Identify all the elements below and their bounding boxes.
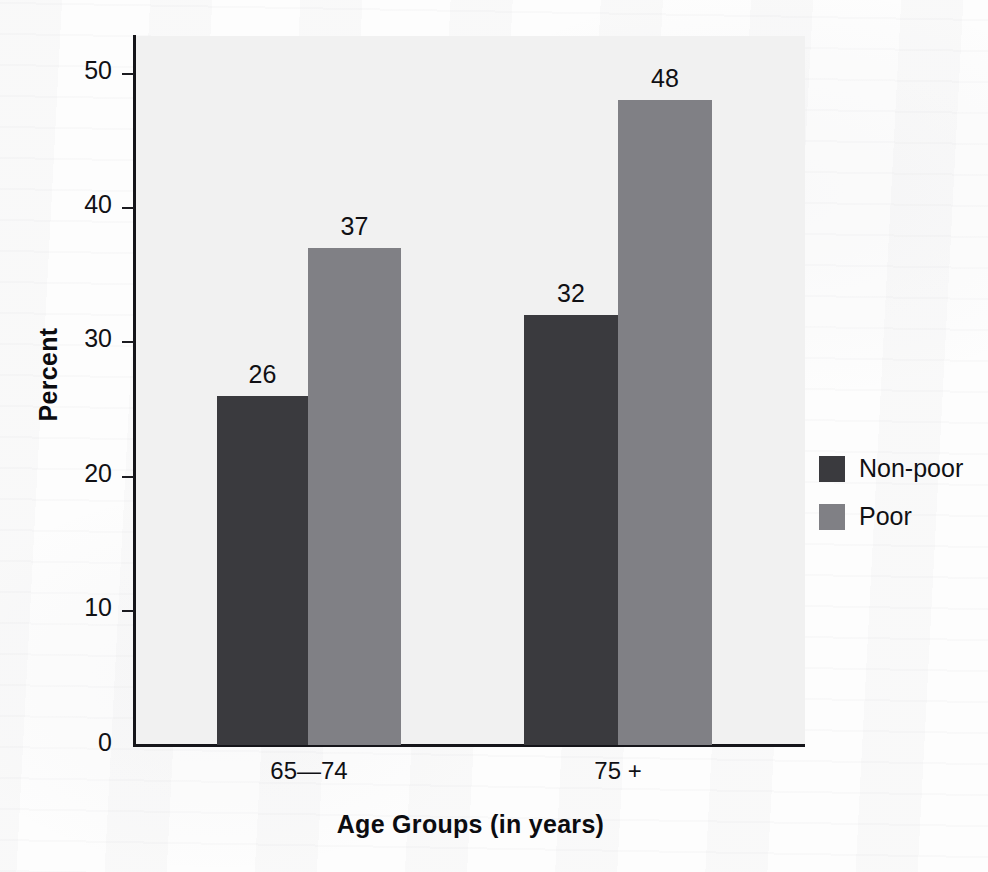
x-axis-title: Age Groups (in years): [136, 810, 805, 839]
y-tick-label-40: 40: [84, 190, 112, 219]
legend-item-poor: Poor: [819, 503, 984, 530]
legend-swatch-poor: [819, 504, 845, 530]
bar-value-75plus-poor: 48: [618, 64, 712, 93]
y-tick-label-10: 10: [84, 593, 112, 622]
y-tick-label-50: 50: [84, 56, 112, 85]
bar-value-65-74-non-poor: 26: [217, 360, 308, 389]
y-axis-title: Percent: [34, 315, 63, 435]
y-tick-mark-30: [122, 341, 134, 343]
bar-75plus-non-poor: [524, 315, 618, 745]
y-tick-label-30: 30: [84, 324, 112, 353]
x-tick-label-65-74: 65—74: [217, 757, 401, 785]
bar-value-65-74-poor: 37: [308, 212, 401, 241]
bar-value-75plus-non-poor: 32: [524, 279, 618, 308]
bars-layer: 26 37 32 48: [136, 36, 805, 745]
legend-swatch-non-poor: [819, 456, 845, 482]
legend-label-non-poor: Non-poor: [859, 454, 963, 483]
x-tick-label-75plus: 75 +: [524, 757, 712, 785]
legend: Non-poor Poor: [819, 455, 984, 551]
legend-label-poor: Poor: [859, 502, 912, 531]
y-tick-mark-20: [122, 476, 134, 478]
bar-65-74-poor: [308, 248, 401, 745]
bar-75plus-poor: [618, 100, 712, 745]
y-tick-label-0: 0: [98, 728, 112, 757]
y-tick-mark-40: [122, 207, 134, 209]
chart-page: 50 40 30 20 10 0 Percent 26 37 32 48 65—…: [0, 0, 988, 872]
bar-65-74-non-poor: [217, 396, 308, 745]
y-tick-label-20: 20: [84, 459, 112, 488]
y-tick-mark-10: [122, 610, 134, 612]
y-tick-mark-50: [122, 73, 134, 75]
legend-item-non-poor: Non-poor: [819, 455, 984, 482]
